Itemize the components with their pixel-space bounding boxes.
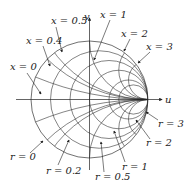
smith-chart: u v x = 0 x = 0.4 x = 0.5 x = 1 x = 2 x … bbox=[0, 0, 184, 186]
u-axis-label: u bbox=[165, 94, 171, 105]
label-x-0.5: x = 0.5 bbox=[51, 15, 87, 26]
label-r-1: r = 1 bbox=[122, 161, 148, 172]
label-x-3: x = 3 bbox=[146, 41, 173, 52]
label-x-1: x = 1 bbox=[100, 9, 127, 20]
label-r-0.5: r = 0.5 bbox=[95, 171, 130, 182]
label-r-0: r = 0 bbox=[10, 151, 37, 162]
label-x-2: x = 2 bbox=[121, 28, 148, 39]
label-r-3: r = 3 bbox=[158, 118, 184, 129]
label-r-0.2: r = 0.2 bbox=[46, 165, 81, 176]
label-x-0: x = 0 bbox=[10, 61, 37, 72]
label-x-0.4: x = 0.4 bbox=[26, 35, 62, 46]
